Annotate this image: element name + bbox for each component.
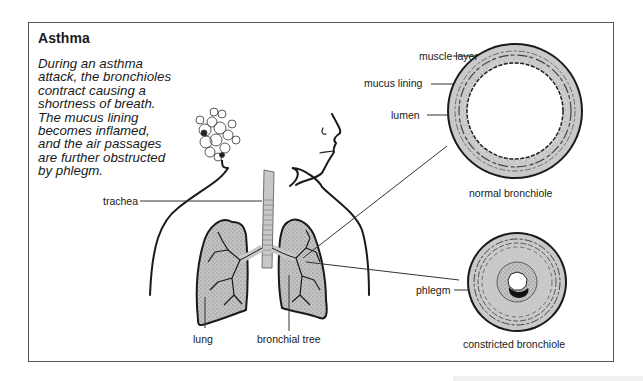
label-trachea: trachea — [103, 195, 138, 207]
label-bronchial-tree: bronchial tree — [257, 333, 321, 345]
label-phlegm: phlegm — [416, 284, 450, 296]
left-lung — [197, 220, 248, 325]
normal-bronchiole-leader — [303, 146, 447, 258]
label-lung: lung — [193, 333, 213, 345]
constricted-bronchiole-leader — [306, 262, 459, 280]
right-lung — [279, 220, 327, 319]
bottom-edge-strip — [453, 376, 643, 381]
label-constricted-bronchiole: constricted bronchiole — [463, 338, 565, 350]
label-muscle-layer: muscle layer — [419, 50, 478, 62]
trachea-shape — [262, 170, 274, 268]
label-lumen: lumen — [391, 109, 420, 121]
label-mucus-lining: mucus lining — [364, 77, 422, 89]
hair — [196, 108, 240, 161]
normal-bronchiole-diagram — [447, 43, 583, 179]
label-normal-bronchiole: normal bronchiole — [469, 187, 552, 199]
body-outline — [150, 114, 369, 295]
constricted-bronchiole-diagram — [467, 232, 567, 332]
